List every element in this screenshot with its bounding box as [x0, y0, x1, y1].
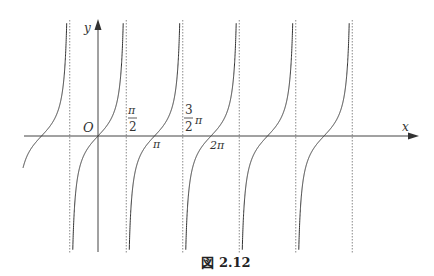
y-axis-label: y — [83, 21, 91, 35]
figure-caption-number: 2.12 — [219, 255, 251, 270]
tangent-graph: y x O π 2 3 2 π π 2π 図 2.12 — [0, 0, 434, 276]
three-half-pi-denominator: 2 — [185, 120, 193, 134]
three-half-pi-suffix: π — [194, 114, 203, 127]
figure-caption-prefix: 図 — [201, 255, 214, 270]
origin-label: O — [83, 120, 94, 135]
x-axis-arrow-icon — [408, 133, 419, 140]
two-pi-label: 2π — [209, 139, 225, 152]
pi-label: π — [152, 138, 161, 151]
half-pi-denominator: 2 — [129, 120, 137, 134]
half-pi-numerator: π — [127, 104, 136, 117]
tangent-branch — [23, 23, 67, 168]
three-half-pi-numerator: 3 — [185, 103, 193, 117]
y-axis-arrow-icon — [95, 19, 102, 30]
x-axis-label: x — [402, 120, 409, 134]
